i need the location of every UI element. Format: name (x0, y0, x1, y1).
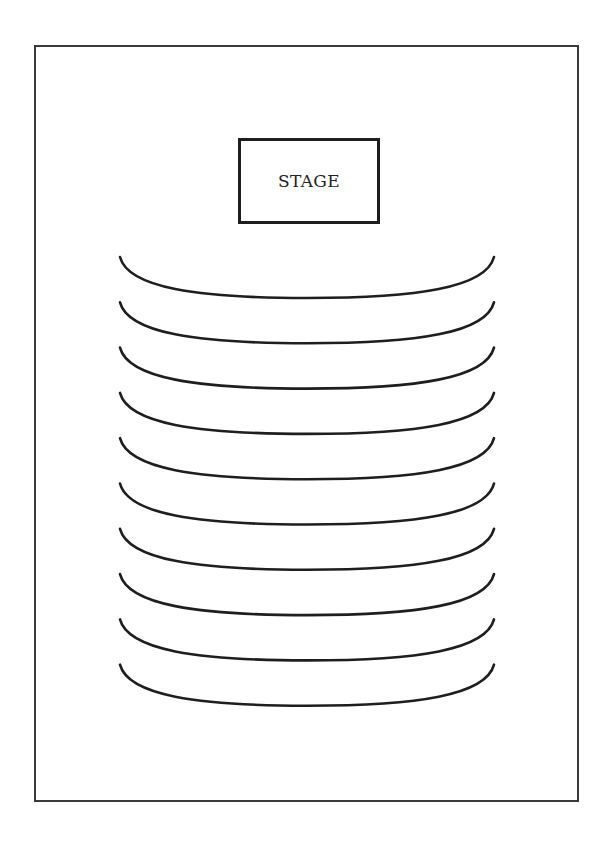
seating-row-8 (120, 574, 494, 615)
seating-row-10 (120, 665, 494, 706)
seating-row-7 (120, 529, 494, 570)
seating-row-3 (120, 348, 494, 389)
seating-row-5 (120, 438, 494, 479)
seating-row-6 (120, 484, 494, 525)
seating-row-4 (120, 393, 494, 434)
seating-row-9 (120, 619, 494, 660)
seating-row-1 (120, 257, 494, 298)
seating-rows (0, 0, 611, 843)
seating-row-2 (120, 302, 494, 343)
